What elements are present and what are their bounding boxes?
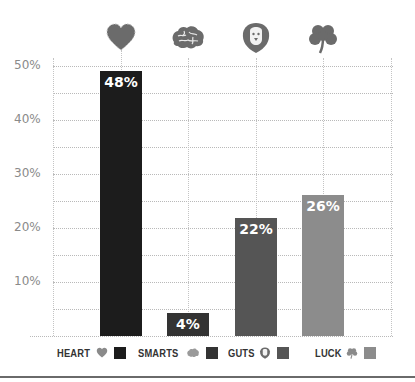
legend-label: LUCK <box>315 347 342 359</box>
y-tick-30: 30% <box>14 166 50 180</box>
legend-item-luck: LUCK <box>315 345 376 361</box>
gridline <box>188 58 189 336</box>
bar-value-label: 22% <box>235 221 277 237</box>
legend-label: GUTS <box>228 347 255 359</box>
brain-icon <box>170 22 206 54</box>
legend-item-heart: HEART <box>57 345 126 361</box>
bar-value-label: 26% <box>302 198 344 214</box>
bar-smarts: 4% <box>167 313 209 336</box>
legend-swatch <box>364 347 376 359</box>
legend-swatch <box>114 347 126 359</box>
divider <box>0 376 415 378</box>
brain-icon <box>186 347 200 359</box>
legend-swatch <box>277 347 289 359</box>
gridline <box>53 58 54 336</box>
bar-guts: 22% <box>235 218 277 336</box>
lion-icon <box>240 22 272 54</box>
gridline <box>391 58 392 336</box>
bar-value-label: 4% <box>167 316 209 332</box>
baseline <box>30 336 393 337</box>
legend-item-guts: GUTS <box>228 345 289 361</box>
legend-label: SMARTS <box>138 347 179 359</box>
legend-label: HEART <box>57 347 90 359</box>
lion-icon <box>259 347 271 359</box>
shamrock-icon <box>346 347 358 359</box>
gridline <box>53 66 393 67</box>
legend-swatch <box>206 347 218 359</box>
heart-icon <box>96 347 108 359</box>
legend: HEART SMARTS GUTS LUCK <box>0 345 415 361</box>
y-tick-50: 50% <box>14 58 50 72</box>
y-tick-40: 40% <box>14 112 50 126</box>
legend-item-smarts: SMARTS <box>138 345 218 361</box>
heart-icon <box>105 22 137 54</box>
bar-value-label: 48% <box>100 74 142 90</box>
y-tick-20: 20% <box>14 220 50 234</box>
y-tick-10: 10% <box>14 274 50 288</box>
bar-heart: 48% <box>100 71 142 336</box>
shamrock-icon <box>307 22 339 54</box>
bar-luck: 26% <box>302 195 344 336</box>
